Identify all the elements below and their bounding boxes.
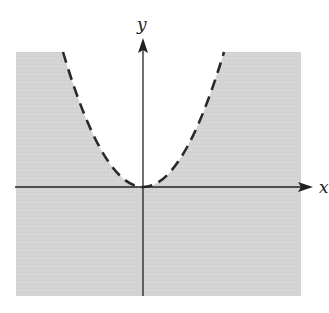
inequality-graph: y x xyxy=(0,0,329,313)
y-axis-label: y xyxy=(136,14,147,34)
x-axis-label: x xyxy=(319,177,329,197)
shaded-region xyxy=(16,52,301,296)
